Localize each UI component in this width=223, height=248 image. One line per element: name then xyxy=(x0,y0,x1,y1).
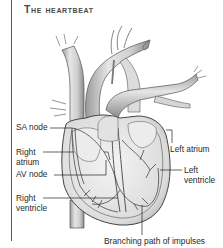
label-left-atrium: Left atrium xyxy=(170,145,210,155)
label-left-ventricle: Left ventricle xyxy=(184,166,215,185)
label-right-ventricle-line2: ventricle xyxy=(16,204,47,214)
label-av-node: AV node xyxy=(16,170,48,180)
label-right-atrium-line2: atrium xyxy=(16,158,39,168)
label-left-ventricle-line2: ventricle xyxy=(184,176,215,186)
label-sa-node: SA node xyxy=(16,123,48,133)
label-right-ventricle: Right ventricle xyxy=(16,194,47,213)
label-branching-path: Branching path of impulses xyxy=(104,237,205,247)
label-right-atrium: Right atrium xyxy=(16,148,39,167)
